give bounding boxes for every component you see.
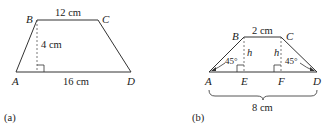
vertex-label-b-F: F [277,75,285,87]
height-label-a: 4 cm [41,39,62,50]
vertex-label-a-D: D [126,75,135,87]
bottom-total-label-b: 8 cm [252,102,273,113]
trapezoid-b [209,37,317,72]
vertex-label-b-D: D [312,75,321,87]
right-angle-mark-a [37,65,44,72]
height-label-b-right: h [274,47,279,58]
vertex-label-a-B: B [26,13,33,25]
angle-label-b-right: 45° [285,56,298,66]
top-base-label-b: 2 cm [252,25,273,36]
height-label-b-left: h [247,47,252,58]
trapezoid-diagrams: A B C D 12 cm 4 cm 16 cm (a) A B C D E F… [0,0,326,133]
bottom-base-label-a: 16 cm [63,76,89,87]
caption-a: (a) [4,112,16,124]
brace-b [209,90,317,100]
right-angle-mark-b-left [237,65,244,72]
caption-b: (b) [192,112,205,124]
figure-a: A B C D 12 cm 4 cm 16 cm (a) [4,7,135,124]
vertex-label-a-A: A [11,75,19,87]
right-angle-mark-b-right [274,65,281,72]
vertex-label-b-A: A [204,75,212,87]
top-base-label-a: 12 cm [55,7,81,18]
figure-b: A B C D E F 2 cm h h 45° 45° 8 cm (b) [192,25,321,124]
vertex-label-b-B: B [232,30,239,42]
vertex-label-b-C: C [286,30,294,42]
vertex-label-a-C: C [102,13,110,25]
trapezoid-a [16,20,131,72]
vertex-label-b-E: E [240,75,248,87]
angle-label-b-left: 45° [225,56,238,66]
